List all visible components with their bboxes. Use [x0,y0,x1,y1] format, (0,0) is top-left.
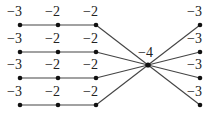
node-weight-label: −3 [187,85,202,99]
node-weight-label: −3 [7,32,22,46]
node [198,76,203,81]
node [94,103,99,108]
node-weight-label: −2 [83,5,98,19]
node-weight-label: −2 [83,58,98,72]
node-weight-label: −2 [83,32,98,46]
node [94,76,99,81]
node [145,62,150,67]
node-weight-label: −3 [187,32,202,46]
node [18,23,23,28]
graph-canvas [0,0,218,117]
node [56,76,61,81]
node-weight-label: −2 [45,32,60,46]
node [56,103,61,108]
node [18,50,23,55]
node [94,50,99,55]
node-weight-label: −3 [7,58,22,72]
node [56,50,61,55]
node [198,23,203,28]
node-weight-label: −2 [45,85,60,99]
node [18,76,23,81]
node-weight-label: −3 [7,85,22,99]
node [198,103,203,108]
graph-diagram: −3−2−2−3−2−2−3−2−2−3−2−2−4−3−3−3−3 [0,0,218,117]
node [18,103,23,108]
node-weight-label: −3 [7,5,22,19]
node [198,50,203,55]
node [56,23,61,28]
node-weight-label: −3 [187,58,202,72]
node-weight-label: −2 [45,58,60,72]
node-weight-label: −4 [138,46,153,60]
node [94,23,99,28]
node-weight-label: −2 [45,5,60,19]
node-weight-label: −3 [187,5,202,19]
node-weight-label: −2 [83,85,98,99]
